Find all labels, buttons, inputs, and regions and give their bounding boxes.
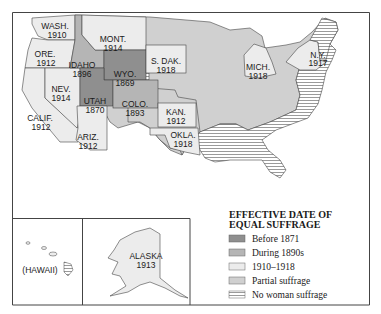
legend-swatch-partial: [229, 277, 245, 284]
legend-label-partial: Partial suffrage: [252, 276, 310, 286]
label-kan-year: 1912: [167, 116, 186, 126]
suffrage-map: WASH. 1910 ORE. 1912 CALIF. 1912 IDAHO 1…: [0, 0, 381, 314]
label-idaho-year: 1896: [73, 69, 92, 79]
legend-label-before-1871: Before 1871: [252, 234, 299, 244]
legend-swatch-1890s: [229, 249, 245, 256]
legend-label-none: No woman suffrage: [252, 290, 327, 300]
legend-label-1910-1918: 1910–1918: [252, 262, 295, 272]
label-okla-year: 1918: [174, 139, 193, 149]
label-hawaii: (HAWAII): [22, 265, 57, 275]
label-mich-year: 1918: [249, 71, 268, 81]
legend: EFFECTIVE DATE OF EQUAL SUFFRAGE Before …: [229, 209, 332, 300]
label-utah-year: 1870: [86, 105, 105, 115]
legend-swatch-1910-1918: [229, 263, 245, 270]
legend-swatch-none: [229, 291, 245, 298]
legend-title-line2: EQUAL SUFFRAGE: [229, 219, 321, 230]
label-alaska-year: 1913: [137, 260, 156, 270]
label-ariz-year: 1912: [79, 141, 98, 151]
legend-swatch-before-1871: [229, 235, 245, 242]
legend-label-1890s: During 1890s: [252, 248, 304, 258]
label-mont-year: 1914: [104, 43, 123, 53]
label-colo-year: 1893: [126, 108, 145, 118]
label-nev-year: 1914: [52, 93, 71, 103]
label-ore-year: 1912: [37, 58, 56, 68]
label-sdak-year: 1918: [157, 65, 176, 75]
label-wash-year: 1910: [48, 30, 67, 40]
label-calif-year: 1912: [32, 122, 51, 132]
label-ny-year: 1917: [309, 58, 328, 68]
label-wyo-year: 1869: [116, 78, 135, 88]
